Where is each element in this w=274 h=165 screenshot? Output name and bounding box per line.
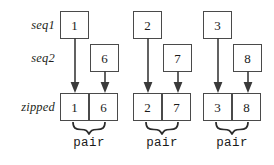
pair-label-1: pair — [59, 136, 119, 150]
arrow-seq2-to-zipped-2 — [171, 71, 186, 94]
zipped-cell-1-right: 6 — [89, 93, 118, 121]
pair-brace-2 — [144, 122, 180, 135]
row-label-seq1: seq1 — [8, 18, 55, 33]
diagram-canvas: seq1 seq2 zipped 1 6 1 6 pair 2 7 — [0, 0, 274, 165]
seq2-cell-2: 7 — [163, 44, 192, 72]
zipped-cell-2-right: 7 — [162, 93, 191, 121]
zipped-cell-2-left: 2 — [133, 93, 162, 121]
zipped-cell-1-left: 1 — [60, 93, 89, 121]
arrow-seq2-to-zipped-3 — [241, 71, 256, 94]
arrow-seq1-to-zipped-1 — [68, 38, 83, 94]
pair-label-3: pair — [202, 136, 262, 150]
arrow-seq2-to-zipped-1 — [98, 71, 113, 94]
pair-label-2: pair — [132, 136, 192, 150]
row-label-zipped: zipped — [4, 100, 55, 115]
arrow-seq1-to-zipped-3 — [211, 38, 226, 94]
row-label-seq2: seq2 — [8, 51, 55, 66]
zipped-cell-3-right: 8 — [232, 93, 261, 121]
seq1-cell-2: 2 — [133, 11, 162, 39]
zipped-cell-3-left: 3 — [203, 93, 232, 121]
seq1-cell-1: 1 — [60, 11, 89, 39]
seq1-cell-3: 3 — [203, 11, 232, 39]
pair-brace-1 — [71, 122, 107, 135]
pair-brace-3 — [214, 122, 250, 135]
arrow-seq1-to-zipped-2 — [141, 38, 156, 94]
seq2-cell-3: 8 — [233, 44, 262, 72]
seq2-cell-1: 6 — [90, 44, 119, 72]
